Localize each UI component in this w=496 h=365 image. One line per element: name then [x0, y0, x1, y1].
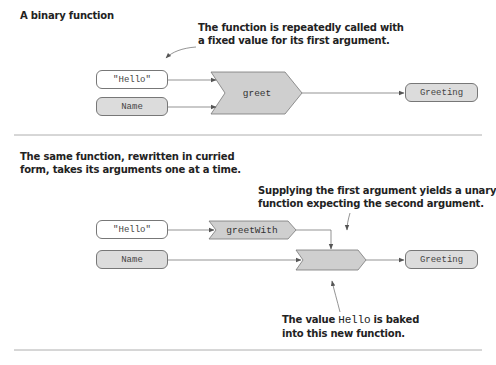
- curried-annotation-bottom: The value Hello is baked into this new f…: [282, 313, 419, 340]
- curried-annotation-top: Supplying the first argument yields a un…: [258, 184, 496, 210]
- curried-annotation-top-line-2: function expecting the second argument.: [258, 197, 496, 210]
- curried-annotation-bottom-line-1: The value Hello is baked: [282, 313, 419, 327]
- curried-annotation-bottom-line-2: into this new function.: [282, 327, 419, 340]
- curried-annotation-top-line-1: Supplying the first argument yields a un…: [258, 184, 496, 197]
- curried-function-title: The same function, rewritten in curried …: [20, 150, 241, 176]
- curried-title-line-1: The same function, rewritten in curried: [20, 150, 241, 163]
- unary-function-label: [302, 250, 360, 270]
- binary-function-title: A binary function: [20, 9, 114, 22]
- annotation-prefix: The value: [282, 314, 338, 325]
- curried-input-hello-box: "Hello": [96, 220, 168, 239]
- curried-output-greeting-box: Greeting: [405, 250, 478, 269]
- curried-input-name-box: Name: [96, 250, 168, 269]
- binary-annotation-line-1: The function is repeatedly called with: [198, 21, 404, 34]
- input-hello-box: "Hello": [96, 70, 168, 89]
- annotation-suffix: is baked: [370, 314, 419, 325]
- diagram-connectors: [0, 0, 496, 365]
- annotation-code: Hello: [338, 314, 370, 326]
- binary-annotation: The function is repeatedly called with a…: [198, 21, 404, 47]
- greet-function-label: greet: [222, 72, 292, 114]
- input-name-box: Name: [96, 97, 168, 116]
- binary-annotation-line-2: a fixed value for its first argument.: [198, 34, 404, 47]
- output-greeting-box: Greeting: [405, 83, 478, 102]
- greetwith-function-label: greetWith: [214, 221, 290, 239]
- curried-title-line-2: form, takes its arguments one at a time.: [20, 163, 241, 176]
